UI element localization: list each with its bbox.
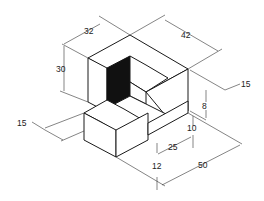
dim-15-left: 15: [17, 118, 27, 128]
dim-8: 8: [202, 101, 207, 111]
dim-15-right: 15: [241, 79, 251, 89]
dim-25: 25: [168, 142, 178, 152]
dim-10: 10: [187, 123, 197, 133]
block-body: [84, 35, 188, 157]
dim-30: 30: [56, 64, 66, 74]
dim-50: 50: [198, 160, 208, 170]
dim-32: 32: [84, 26, 94, 36]
dim-12: 12: [152, 161, 162, 171]
dim-42: 42: [181, 30, 191, 40]
isometric-drawing: 32 42 30 15 8 10 25 12 50 15: [0, 0, 264, 201]
